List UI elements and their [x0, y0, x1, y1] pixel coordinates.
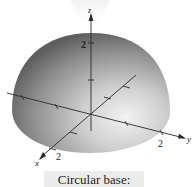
y-tick-label: 2: [158, 138, 163, 149]
hemisphere-figure: z 2 y 2 x 2: [0, 0, 196, 187]
x-axis-label: x: [34, 158, 39, 168]
y-axis-label: y: [186, 134, 191, 144]
caption-box: Circular base:: [44, 171, 144, 187]
background-streak: [70, 0, 110, 30]
x-tick-label: 2: [56, 151, 61, 162]
figure-caption: Circular base:: [44, 172, 144, 187]
z-tick-label: 2: [81, 39, 86, 50]
